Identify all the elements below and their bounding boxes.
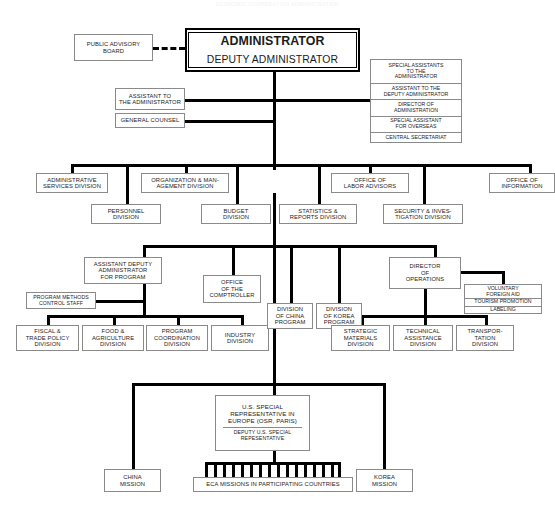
connector-drop-statistics-reports xyxy=(318,164,321,204)
connector-voluntary-aid-horizontal xyxy=(461,271,505,274)
node-director-of-operations[interactable]: DIRECTOR OF OPERATIONS xyxy=(389,257,461,289)
node-office-of-comptroller[interactable]: OFFICE OF THE COMPTROLLER xyxy=(203,275,261,303)
connector-drop-administrative-services xyxy=(71,164,74,173)
connector-bottom-bus xyxy=(132,383,386,386)
cell-voluntary-foreign-aid: VOLUNTARY FOREIGN AID xyxy=(465,285,541,299)
node-program-coordination-division[interactable]: PROGRAM COORDINATION DIVISION xyxy=(146,325,208,351)
node-transportation-division[interactable]: TRANSPOR- TATION DIVISION xyxy=(456,325,514,351)
node-organization-management-division[interactable]: ORGANIZATION & MAN- AGEMENT DIVISION xyxy=(141,173,229,193)
node-personnel-division[interactable]: PERSONNEL DIVISION xyxy=(91,204,161,224)
node-voluntary-aid-stack[interactable]: VOLUNTARY FOREIGN AID TOURISM PROMOTION … xyxy=(464,284,542,314)
node-budget-division[interactable]: BUDGET DIVISION xyxy=(201,204,271,224)
connector-drop-organization-management xyxy=(185,164,188,173)
node-us-special-representative[interactable]: U.S. SPECIAL REPRESENTATIVE IN EUROPE (O… xyxy=(215,395,310,451)
administrator-title: ADMINISTRATOR xyxy=(220,35,324,49)
node-korea-mission[interactable]: KOREA MISSION xyxy=(356,469,413,492)
node-general-counsel[interactable]: GENERAL COUNSEL xyxy=(115,113,185,128)
connector-drop-technical-assistance xyxy=(424,315,427,325)
connector-drop-korea-program xyxy=(338,245,341,303)
connector-operations-spine xyxy=(424,289,427,317)
cell-director-of-administration: DIRECTOR OF ADMINISTRATION xyxy=(371,100,461,116)
cell-special-assistant-for-overseas: SPECIAL ASSISTANT FOR OVERSEAS xyxy=(371,117,461,133)
deputy-administrator-title: DEPUTY ADMINISTRATOR xyxy=(207,54,338,66)
cell-central-secretariat: CENTRAL SECRETARIAT xyxy=(371,133,461,142)
connector-tier3-bus xyxy=(143,245,435,248)
connector-drop-fiscal-trade xyxy=(47,315,50,325)
connector-program-spine xyxy=(143,284,146,317)
connector-program-methods xyxy=(96,300,143,303)
connector-tier2-bus xyxy=(71,164,531,167)
connector-drop-budget xyxy=(236,164,239,204)
node-food-agriculture-division[interactable]: FOOD & AGRICULTURE DIVISION xyxy=(82,325,144,351)
node-division-of-china-program[interactable]: DIVISION OF CHINA PROGRAM xyxy=(267,303,313,329)
node-program-methods-control-staff[interactable]: PROGRAM METHODS CONTROL STAFF xyxy=(26,292,96,309)
node-fiscal-trade-policy-division[interactable]: FISCAL & TRADE POLICY DIVISION xyxy=(16,325,79,351)
node-office-of-information[interactable]: OFFICE OF INFORMATION xyxy=(489,173,555,193)
connector-drop-office-of-information xyxy=(529,164,532,173)
connector-drop-assistant-deputy-program xyxy=(143,245,146,257)
connector-voluntary-aid-vertical xyxy=(502,271,505,284)
node-administrative-services-division[interactable]: ADMINISTRATIVE SERVICES DIVISION xyxy=(36,173,108,193)
connector-drop-us-special-rep xyxy=(273,383,276,395)
node-china-mission[interactable]: CHINA MISSION xyxy=(104,469,161,492)
connector-drop-personnel xyxy=(126,164,129,204)
connector-drop-korea-mission xyxy=(383,383,386,469)
special-rep-divider xyxy=(223,427,303,428)
node-special-assistants-stack[interactable]: SPECIAL ASSISTANTS TO THE ADMINISTRATOR … xyxy=(370,59,462,143)
connector-drop-food-agriculture xyxy=(113,315,116,325)
cell-assistant-to-deputy-administrator: ASSISTANT TO THE DEPUTY ADMINISTRATOR xyxy=(371,84,461,100)
connector-drop-program-coordination xyxy=(177,315,180,325)
node-technical-assistance-division[interactable]: TECHNICAL ASSISTANCE DIVISION xyxy=(393,325,453,351)
connector-drop-china-mission xyxy=(132,383,135,469)
node-assistant-deputy-administrator-program[interactable]: ASSISTANT DEPUTY ADMINISTRATOR FOR PROGR… xyxy=(84,257,162,284)
connector-main-spine-mid xyxy=(273,193,276,247)
node-industry-division[interactable]: INDUSTRY DIVISION xyxy=(211,325,269,351)
document-title: ECONOMIC COOPERATION ADMINISTRATION xyxy=(0,1,555,7)
connector-general-counsel xyxy=(183,120,275,123)
node-security-investigation-division[interactable]: SECURITY & INVES- TIGATION DIVISION xyxy=(383,204,463,224)
connector-drop-director-operations xyxy=(434,245,437,257)
connector-drop-industry xyxy=(241,315,244,325)
cell-special-assistants-to-administrator: SPECIAL ASSISTANTS TO THE ADMINISTRATOR xyxy=(371,60,461,84)
node-assistant-to-administrator[interactable]: ASSISTANT TO THE ADMINISTRATOR xyxy=(115,88,185,110)
connector-drop-security-investigation xyxy=(423,164,426,204)
connector-drop-labor-advisors xyxy=(369,164,372,173)
connector-assistant-to-administrator xyxy=(183,99,371,102)
connector-drop-transportation xyxy=(485,315,488,325)
cell-labeling: LABELING xyxy=(465,307,541,314)
connector-drop-office-comptroller xyxy=(232,245,235,275)
node-strategic-materials-division[interactable]: STRATEGIC MATERIALS DIVISION xyxy=(331,325,390,351)
connector-drop-china-program xyxy=(290,245,293,303)
node-statistics-reports-division[interactable]: STATISTICS & REPORTS DIVISION xyxy=(279,204,357,224)
node-office-of-labor-advisors[interactable]: OFFICE OF LABOR ADVISORS xyxy=(331,173,409,193)
connector-program-bus xyxy=(47,315,243,318)
node-eca-missions[interactable]: ECA MISSIONS IN PARTICIPATING COUNTRIES xyxy=(193,477,353,492)
node-public-advisory-board[interactable]: PUBLIC ADVISORY BOARD xyxy=(74,34,153,61)
connector-advisory-dashed xyxy=(153,47,185,50)
org-chart: ECONOMIC COOPERATION ADMINISTRATION PUBL… xyxy=(0,0,555,513)
node-administrator[interactable]: ADMINISTRATOR DEPUTY ADMINISTRATOR xyxy=(185,28,360,72)
